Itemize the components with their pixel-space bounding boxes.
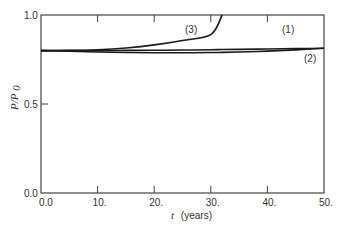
x-axis-title: t (years) — [171, 209, 212, 221]
x-tick-label: 10. — [93, 197, 107, 208]
x-tick-label: 0.0 — [39, 197, 53, 208]
y-tick-label: 1.0 — [24, 10, 38, 21]
x-tick-label: 40. — [262, 197, 276, 208]
x-tick-label: 30. — [206, 197, 220, 208]
plot-frame — [41, 15, 324, 193]
y-tick-label: 0.5 — [24, 99, 38, 110]
axis-ticks — [41, 15, 267, 193]
chart-canvas: 0.010.20.30.40.50.0.00.51.0 (3) (1) (2) … — [0, 0, 341, 227]
x-tick-label: 50. — [319, 197, 333, 208]
series-label-3: (3) — [185, 24, 197, 35]
tick-labels: 0.010.20.30.40.50.0.00.51.0 — [24, 10, 333, 208]
series-label-2: (2) — [304, 53, 316, 64]
y-axis-title: P/P 0 — [8, 85, 22, 111]
x-tick-label: 20. — [149, 197, 163, 208]
y-tick-label: 0.0 — [24, 188, 38, 199]
series-label-1: (1) — [282, 24, 294, 35]
